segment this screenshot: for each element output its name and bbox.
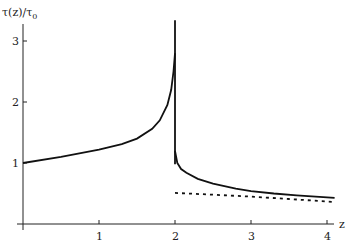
x-ticks: 1 2 3 4 — [96, 220, 331, 243]
x-tick-label-4: 4 — [324, 230, 331, 243]
x-tick-label-2: 2 — [172, 230, 179, 243]
y-axis-label-main: τ(z)/τ — [2, 6, 32, 19]
y-axis-label: τ(z)/τ0 — [2, 6, 37, 21]
chart: 1 2 3 1 2 3 4 τ(z)/τ0 z — [0, 0, 350, 244]
x-axis-label: z — [339, 218, 345, 231]
series-dotted-asymptote — [175, 193, 335, 202]
y-tick-label-1: 1 — [12, 157, 19, 170]
series-solid-right-branch — [175, 151, 335, 198]
series-solid-left-branch — [23, 53, 175, 163]
x-tick-label-3: 3 — [248, 230, 255, 243]
x-tick-label-1: 1 — [96, 230, 103, 243]
y-ticks: 1 2 3 — [12, 35, 27, 170]
series-layer — [23, 20, 335, 202]
y-axis-label-subscript: 0 — [32, 12, 37, 21]
y-tick-label-2: 2 — [12, 96, 19, 109]
y-tick-label-3: 3 — [12, 35, 19, 48]
